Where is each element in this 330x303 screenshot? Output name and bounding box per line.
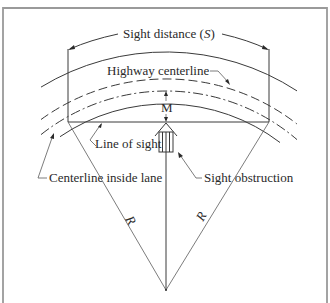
sight-obstruction-label: Sight obstruction [204,170,294,185]
centerline-inside-lane-arrowhead [50,133,54,139]
highway-centerline-label: Highway centerline [107,63,209,78]
sight-obstruction-arrowhead [178,152,183,158]
curve-center-point [165,289,167,291]
sight-obstruction-leader [180,155,202,178]
radius-label-left: R [122,212,139,227]
radius-line-right [166,122,269,290]
centerline-inside-lane-label: Centerline inside lane [49,170,163,185]
line-of-sight-label: Line of sight [95,136,162,151]
sight-distance-arc-left [70,34,118,49]
radius-label-right: R [192,209,209,224]
sight-distance-arrowhead-left [68,45,75,50]
sight-distance-diagram: Sight distance (S) Highway centerline M … [0,0,330,303]
middle-ordinate-arrowhead-bottom [164,117,168,122]
sight-distance-arc-right [222,34,267,49]
middle-ordinate-arrowhead-top [164,91,168,96]
sight-distance-label: Sight distance (S) [123,26,215,41]
sight-distance-arrowhead-right [262,45,269,50]
middle-ordinate-label: M [161,100,173,115]
